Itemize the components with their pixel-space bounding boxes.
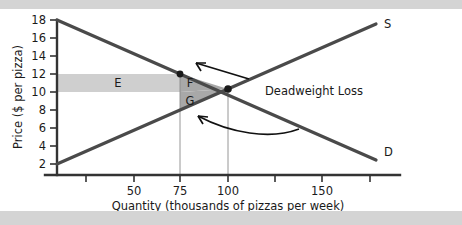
xtick-label-50: 50 <box>127 184 142 198</box>
demand-curve-label: D <box>384 145 393 159</box>
ytick-label-4: 4 <box>39 139 46 153</box>
ytick-label-18: 18 <box>31 13 46 27</box>
bottom-decorative-band <box>0 211 462 225</box>
point-q75-p12 <box>177 71 184 78</box>
region-label-g: G <box>186 94 195 108</box>
ytick-label-16: 16 <box>31 31 46 45</box>
ytick-label-12: 12 <box>31 67 46 81</box>
xtick-label-150: 150 <box>311 184 333 198</box>
y-axis-title: Price ($ per pizza) <box>11 45 25 149</box>
ytick-label-14: 14 <box>31 49 46 63</box>
xtick-label-75: 75 <box>173 184 188 198</box>
arrow-to-point-q75 <box>196 63 249 79</box>
ytick-label-6: 6 <box>39 121 46 135</box>
ytick-label-8: 8 <box>39 103 46 117</box>
top-decorative-band <box>0 0 462 9</box>
region-label-e: E <box>114 76 121 90</box>
x-axis-title: Quantity (thousands of pizzas per week) <box>112 199 345 211</box>
deadweight-loss-label: Deadweight Loss <box>265 84 363 98</box>
ytick-label-2: 2 <box>39 157 46 171</box>
supply-demand-chart: 18 16 14 12 10 8 6 4 2 50 75 100 150 E F… <box>0 9 462 211</box>
ytick-label-10: 10 <box>31 85 46 99</box>
chart-canvas: 18 16 14 12 10 8 6 4 2 50 75 100 150 E F… <box>0 9 462 211</box>
supply-curve-label: S <box>384 17 391 31</box>
region-label-f: F <box>187 76 194 90</box>
point-equilibrium <box>224 85 232 93</box>
xtick-label-100: 100 <box>217 184 239 198</box>
